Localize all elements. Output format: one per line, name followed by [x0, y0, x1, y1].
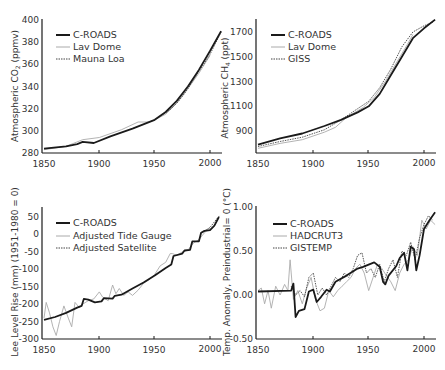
co2-legend-maunaloa: Mauna Loa	[73, 53, 125, 64]
ch4-legend-giss: GISS	[288, 53, 310, 64]
sea-ytick--100: -100	[19, 264, 40, 274]
ch4-xtick-1850: 1850	[247, 159, 270, 169]
ch4-xtick-1900: 1900	[302, 159, 325, 169]
sea-ytick-50: 50	[28, 212, 40, 222]
sea-xtick-1950: 1950	[143, 345, 166, 355]
temp-y-axis-title: Temp. Anomaly, Preindustrial= 0 (°C)	[222, 188, 232, 357]
sea-xtick-1850: 1850	[33, 345, 56, 355]
sea-ytick--200: -200	[19, 299, 40, 309]
ch4-xtick-2000: 2000	[413, 158, 436, 168]
temp-xtick-2000: 2000	[413, 344, 436, 354]
co2-xtick-1850: 1850	[33, 159, 56, 169]
sea-ytick--300: -300	[19, 334, 40, 344]
temp-xtick-1900: 1900	[302, 345, 325, 355]
ch4-series-giss	[258, 22, 433, 146]
sea-y-axis-title: Lee Level Rise (mm) (1951-1980 = 0)	[10, 187, 20, 357]
ch4-legend: C-ROADS Lav Dome GISS	[271, 29, 336, 64]
co2-series-mauna-loa	[164, 32, 222, 114]
temp-ytick--0.50: -0.50	[230, 334, 254, 344]
temperature-series-c-roads	[258, 212, 435, 317]
sea-legend-tide-gauge: Adjusted Tide Gauge	[73, 230, 172, 241]
ch4-ytick-1500: 1500	[230, 52, 253, 62]
ch4-legend-lavdome: Lav Dome	[288, 41, 336, 52]
ch4-chart: 1850 1900 1950 2000 900 1100 1300 1500 1…	[220, 19, 436, 169]
temp-xtick-1950: 1950	[357, 345, 380, 355]
co2-ytick-280: 280	[22, 148, 39, 158]
temp-series-layer	[258, 212, 435, 317]
co2-chart: 1850 1900 1950 2000 280 300 320 340 360 …	[10, 15, 222, 169]
ch4-y-axis-title: Atmospheric CH4 (ppt)	[220, 37, 231, 138]
co2-series-lav-dome	[44, 56, 210, 150]
co2-xtick-1950: 1950	[143, 159, 166, 169]
co2-ytick-320: 320	[22, 104, 39, 114]
sea-legend-satellite: Adjusted Satellite	[73, 242, 157, 253]
ch4-ytick-1100: 1100	[230, 101, 253, 111]
figure-canvas: 1850 1900 1950 2000 280 300 320 340 360 …	[0, 0, 445, 370]
ch4-legend-croads: C-ROADS	[288, 29, 332, 40]
co2-xtick-2000: 2000	[199, 158, 222, 168]
sea-ytick--50: -50	[24, 247, 39, 257]
co2-legend: C-ROADS Lav Dome Mauna Loa	[56, 29, 125, 64]
sea-ytick-0: 0	[33, 229, 39, 239]
ch4-xtick-1950: 1950	[357, 159, 380, 169]
temp-ytick-0.00: 0.00	[233, 290, 253, 300]
ch4-series-layer	[258, 20, 435, 149]
co2-xtick-1900: 1900	[88, 159, 111, 169]
temp-legend-hadcrut3: HADCRUT3	[290, 230, 343, 241]
co2-series-c-roads	[44, 31, 221, 149]
sea-ytick--250: -250	[19, 317, 40, 327]
temp-ytick-0.50: 0.50	[233, 246, 253, 256]
co2-ytick-340: 340	[22, 82, 39, 92]
temp-xtick-1850: 1850	[247, 345, 270, 355]
temp-legend-croads: C-ROADS	[290, 218, 334, 229]
co2-series-layer	[44, 31, 221, 150]
sea-xtick-1900: 1900	[88, 345, 111, 355]
co2-y-axis-title: Atmospheric CO2 (ppmv)	[10, 30, 21, 142]
temp-ytick-1.00: 1.00	[233, 202, 253, 212]
sea-legend-croads: C-ROADS	[73, 217, 117, 228]
temperature-chart: 1850 1900 1950 2000 -0.50 0.00 0.50 1.00…	[222, 188, 436, 357]
ch4-ytick-1300: 1300	[230, 77, 253, 87]
co2-legend-croads: C-ROADS	[73, 29, 117, 40]
co2-ytick-360: 360	[22, 59, 39, 69]
sea-ytick--150: -150	[19, 282, 40, 292]
co2-ytick-300: 300	[22, 126, 39, 136]
ch4-ytick-900: 900	[236, 126, 253, 136]
co2-ytick-400: 400	[22, 15, 39, 25]
ch4-ytick-1700: 1700	[230, 27, 253, 37]
co2-legend-lavdome: Lav Dome	[73, 41, 121, 52]
temp-legend-gistemp: GISTEMP	[290, 242, 332, 253]
sea-level-chart: 1850 1900 1950 2000 -300 -250 -200 -150 …	[10, 187, 222, 357]
sea-xtick-2000: 2000	[199, 344, 222, 354]
temp-legend: C-ROADS HADCRUT3 GISTEMP	[273, 218, 343, 253]
sea-legend: C-ROADS Adjusted Tide Gauge Adjusted Sat…	[56, 217, 172, 253]
co2-ytick-380: 380	[22, 37, 39, 47]
